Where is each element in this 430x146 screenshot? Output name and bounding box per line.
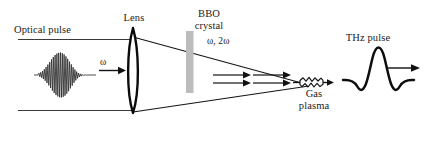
label-bbo-crystal-line2: crystal	[178, 20, 240, 32]
thz-direction-arrow	[386, 64, 420, 72]
label-thz-pulse: THz pulse	[333, 32, 403, 44]
label-gas-plasma-line2: plasma	[288, 100, 340, 112]
label-bbo-crystal-line1: BBO	[178, 8, 240, 20]
thz-waveform	[343, 48, 414, 90]
label-bbo-crystal: BBO crystal	[178, 8, 240, 31]
optical-pulse-waveform	[34, 53, 96, 98]
label-gas-plasma-line1: Gas	[288, 88, 340, 100]
label-gas-plasma: Gas plasma	[288, 88, 340, 111]
thz-generation-figure: Optical pulse Lens BBO crystal ω, 2ω ω G…	[0, 0, 430, 146]
label-lens: Lens	[113, 12, 155, 24]
plasma-filament	[293, 77, 334, 87]
bbo-crystal-shape	[186, 31, 194, 93]
label-omega: ω	[100, 57, 106, 69]
lens-shape	[128, 28, 138, 113]
label-omega-2omega: ω, 2ω	[207, 36, 230, 48]
beam-arrow-upper	[213, 71, 291, 78]
beam-arrow-lower	[213, 79, 291, 86]
label-optical-pulse: Optical pulse	[14, 24, 71, 36]
converging-ray-lower	[133, 86, 309, 112]
